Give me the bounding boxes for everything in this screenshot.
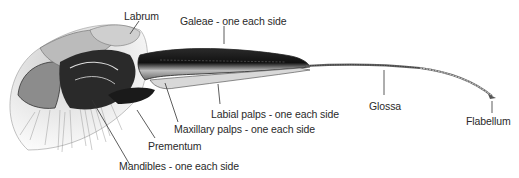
label-mandibles: Mandibles - one each side <box>119 160 239 172</box>
label-galeae: Galeae - one each side <box>180 15 286 27</box>
label-flabellum: Flabellum <box>466 115 511 127</box>
label-labrum: Labrum <box>124 10 159 22</box>
mouthparts-diagram: Labrum Galeae - one each side Labial pal… <box>0 0 519 178</box>
glossa-shape <box>305 65 492 96</box>
leader-maxillary-palps <box>165 83 178 122</box>
label-glossa: Glossa <box>369 100 401 112</box>
label-prementum: Prementum <box>148 140 201 152</box>
leader-prementum <box>137 110 155 138</box>
label-maxillary-palps: Maxillary palps - one each side <box>174 123 315 135</box>
leader-labial-palps <box>218 84 220 104</box>
label-labial-palps: Labial palps - one each side <box>211 108 339 120</box>
